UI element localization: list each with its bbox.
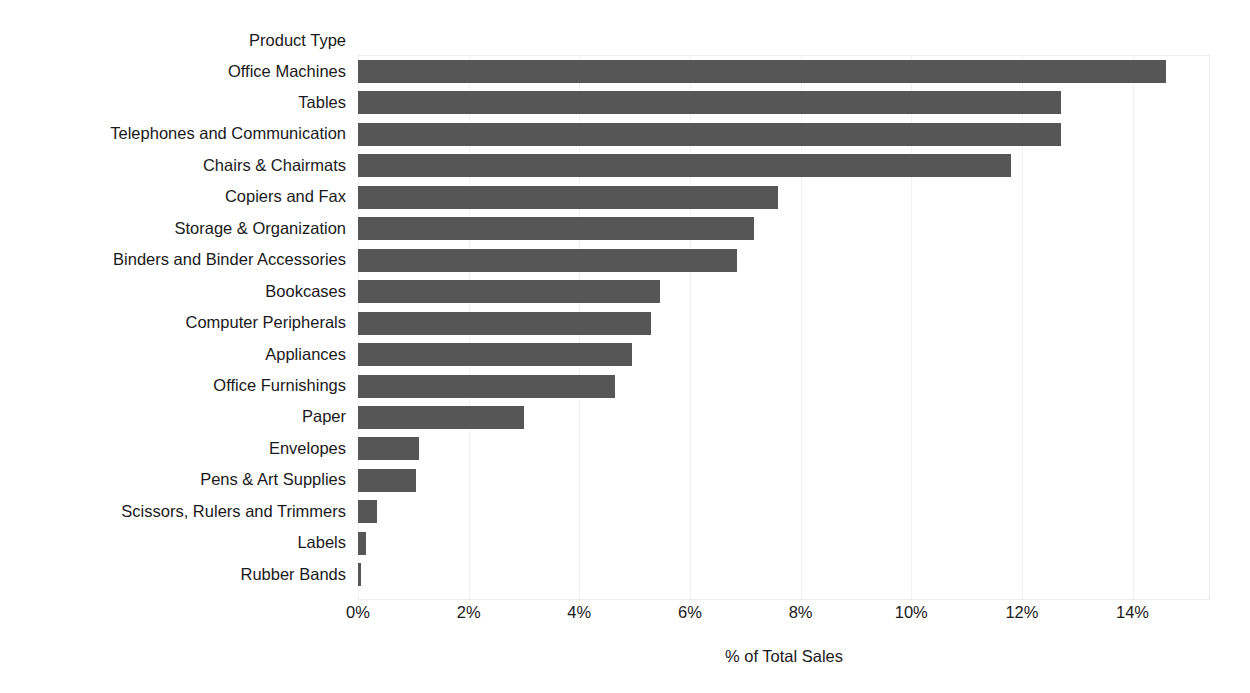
category-label: Computer Peripherals [0, 314, 352, 331]
bar[interactable] [358, 249, 737, 272]
x-axis: 0%2%4%6%8%10%12%14% [358, 604, 1210, 634]
bar[interactable] [358, 375, 615, 398]
bar[interactable] [358, 500, 377, 523]
category-label: Paper [0, 408, 352, 425]
x-tick-label: 8% [789, 604, 813, 621]
category-label: Binders and Binder Accessories [0, 251, 352, 268]
bar[interactable] [358, 469, 416, 492]
bar[interactable] [358, 343, 632, 366]
x-tick-label: 4% [567, 604, 591, 621]
bar-layer [358, 56, 1209, 599]
x-tick-label: 0% [346, 604, 370, 621]
bar[interactable] [358, 406, 524, 429]
x-tick-label: 10% [895, 604, 928, 621]
bar[interactable] [358, 532, 366, 555]
bar[interactable] [358, 563, 361, 586]
bar[interactable] [358, 154, 1011, 177]
bar-chart: Product Type Office MachinesTablesTeleph… [0, 0, 1250, 693]
category-label: Office Machines [0, 63, 352, 80]
category-label: Labels [0, 534, 352, 551]
category-label: Rubber Bands [0, 566, 352, 583]
category-label: Pens & Art Supplies [0, 471, 352, 488]
category-label: Appliances [0, 346, 352, 363]
category-label: Office Furnishings [0, 377, 352, 394]
category-label: Bookcases [0, 283, 352, 300]
category-label: Scissors, Rulers and Trimmers [0, 503, 352, 520]
plot-area [358, 55, 1210, 600]
bar[interactable] [358, 217, 754, 240]
bar[interactable] [358, 91, 1061, 114]
category-label: Chairs & Chairmats [0, 157, 352, 174]
x-tick-label: 2% [457, 604, 481, 621]
bar[interactable] [358, 186, 778, 209]
x-tick-label: 12% [1005, 604, 1038, 621]
x-tick-label: 14% [1116, 604, 1149, 621]
x-tick-label: 6% [678, 604, 702, 621]
category-label: Tables [0, 94, 352, 111]
category-label: Telephones and Communication [0, 125, 352, 142]
bar[interactable] [358, 312, 651, 335]
bar[interactable] [358, 280, 660, 303]
bar[interactable] [358, 437, 419, 460]
category-label: Copiers and Fax [0, 188, 352, 205]
product-type-header: Product Type [0, 32, 352, 49]
category-label: Storage & Organization [0, 220, 352, 237]
x-axis-title: % of Total Sales [358, 648, 1210, 665]
category-label: Envelopes [0, 440, 352, 457]
bar[interactable] [358, 60, 1166, 83]
bar[interactable] [358, 123, 1061, 146]
